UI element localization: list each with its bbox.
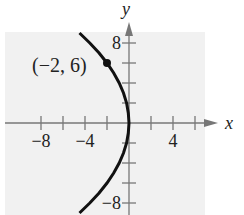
y-axis-arrow-icon bbox=[125, 22, 133, 36]
x-tick-label: −8 bbox=[31, 131, 50, 151]
y-tick-label: 8 bbox=[112, 33, 121, 53]
y-axis-label: y bbox=[120, 0, 130, 19]
parabola-chart: x y −8−448−8 (−2, 6) bbox=[0, 0, 244, 215]
x-tick-label: 4 bbox=[169, 131, 178, 151]
x-tick-label: −4 bbox=[75, 131, 94, 151]
highlighted-point-marker bbox=[103, 59, 111, 67]
y-tick-label: −8 bbox=[102, 193, 121, 213]
x-axis-label: x bbox=[224, 113, 233, 133]
x-axis-arrow-icon bbox=[204, 119, 218, 127]
point-annotation-label: (−2, 6) bbox=[32, 54, 87, 77]
